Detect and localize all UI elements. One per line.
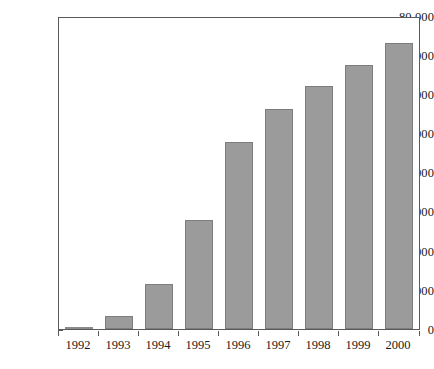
x-axis-tick-mark [258,331,259,336]
bar-1993 [105,316,133,329]
bar-1996 [225,142,253,329]
bar-1999 [345,65,373,329]
bar-1992 [65,327,93,329]
x-axis-tick-label: 2000 [373,338,423,352]
x-axis-tick-mark [58,331,59,336]
bar-2000 [385,43,413,329]
bar-chart: 80 000 70 000 60 000 50 000 40 000 30 00… [0,0,434,369]
bar-1998 [305,86,333,329]
x-axis-tick-mark [218,331,219,336]
x-axis-tick-mark [338,331,339,336]
x-axis-tick-mark [298,331,299,336]
bar-1995 [185,220,213,329]
bar-1994 [145,284,173,329]
x-axis-tick-mark [138,331,139,336]
plot-area [58,17,420,330]
bar-1997 [265,109,293,329]
x-axis-tick-mark [419,331,420,336]
x-axis-tick-mark [178,331,179,336]
x-axis-tick-mark [98,331,99,336]
x-axis-tick-mark [378,331,379,336]
